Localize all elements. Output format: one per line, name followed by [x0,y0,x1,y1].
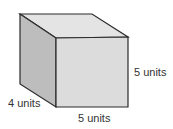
height-label: 5 units [134,66,166,78]
depth-label: 4 units [8,97,40,109]
front-face [56,37,128,107]
width-label: 5 units [78,112,110,124]
prism-figure [0,0,173,129]
